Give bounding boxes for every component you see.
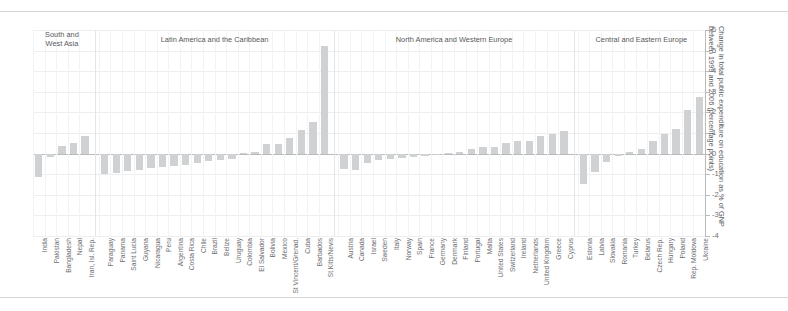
x-tick-label: St Vincent/Grenad.	[292, 238, 299, 294]
bar	[228, 154, 235, 159]
x-tick-label: Israel	[370, 238, 377, 254]
bar-slot	[134, 30, 146, 236]
bar	[182, 154, 189, 165]
category-separator	[636, 30, 637, 236]
category-separator	[68, 30, 69, 236]
group-title: Central and Eastern Europe	[556, 36, 726, 45]
x-tick-label: Argentina	[177, 238, 184, 266]
x-tick-label: Brazil	[211, 238, 218, 255]
bar	[113, 154, 120, 174]
category-separator	[670, 30, 671, 236]
group-divider	[334, 30, 335, 236]
bar-slot	[547, 30, 559, 236]
bar	[456, 152, 463, 154]
bar-slot	[659, 30, 671, 236]
bar-slot	[624, 30, 636, 236]
bar	[502, 143, 509, 153]
group-divider	[95, 30, 96, 236]
category-separator	[682, 30, 683, 236]
category-separator	[408, 30, 409, 236]
x-tick-label: Malta	[486, 238, 493, 254]
bar	[159, 154, 166, 167]
category-separator	[512, 30, 513, 236]
bar	[47, 154, 54, 157]
bar-slot	[601, 30, 613, 236]
bar-slot	[385, 30, 397, 236]
category-separator	[535, 30, 536, 236]
x-tick-label: Guyana	[142, 238, 149, 261]
bar-slot	[33, 30, 45, 236]
bar	[240, 153, 247, 154]
bar-slot	[226, 30, 238, 236]
bar	[514, 141, 521, 153]
x-tick-label: France	[428, 238, 435, 259]
category-separator	[385, 30, 386, 236]
bar	[398, 154, 405, 158]
category-separator	[134, 30, 135, 236]
bar-slot	[578, 30, 590, 236]
bar	[491, 147, 498, 153]
category-separator	[373, 30, 374, 236]
x-tick-label: Rep. Moldova	[690, 238, 697, 279]
bar-slot	[45, 30, 57, 236]
category-separator	[145, 30, 146, 236]
x-tick-label: Mexico	[281, 238, 288, 259]
bar	[638, 149, 645, 153]
bar	[364, 154, 371, 163]
x-tick-label: Norway	[405, 238, 412, 260]
bar-slot	[68, 30, 80, 236]
x-tick-label: Nepal	[76, 238, 83, 255]
bar	[58, 146, 65, 153]
category-separator	[99, 30, 100, 236]
bar	[603, 154, 610, 162]
x-tick-label: Finland	[462, 238, 469, 260]
bar-slot	[523, 30, 535, 236]
category-separator	[180, 30, 181, 236]
bar-slot	[512, 30, 524, 236]
bar	[468, 149, 475, 153]
bar	[275, 144, 282, 153]
top-divider	[0, 11, 788, 12]
category-separator	[272, 30, 273, 236]
category-separator	[338, 30, 339, 236]
category-separator	[45, 30, 46, 236]
bar-slot	[203, 30, 215, 236]
x-tick-label: Slovakia	[609, 238, 616, 263]
category-separator	[500, 30, 501, 236]
category-separator	[693, 30, 694, 236]
x-tick-label: Pakistan	[53, 238, 60, 263]
bar-slot	[693, 30, 705, 236]
bar-slot	[361, 30, 373, 236]
x-tick-label: United Kingdom	[543, 238, 550, 285]
bar-slot	[682, 30, 694, 236]
bar	[217, 154, 224, 160]
x-tick-label: Germany	[439, 238, 446, 265]
bar-slot	[99, 30, 111, 236]
bar	[580, 154, 587, 185]
bar	[387, 154, 394, 159]
bar-slot	[500, 30, 512, 236]
bar-slot	[79, 30, 91, 236]
category-separator	[122, 30, 123, 236]
bar	[560, 131, 567, 154]
category-separator	[307, 30, 308, 236]
bar	[672, 129, 679, 154]
bar-slot	[419, 30, 431, 236]
category-separator	[419, 30, 420, 236]
category-separator	[396, 30, 397, 236]
x-tick-label: Ukraine	[702, 238, 709, 261]
chart-figure: South and West AsiaLatin America and the…	[0, 0, 788, 311]
category-separator	[547, 30, 548, 236]
bar-slot	[535, 30, 547, 236]
bar-slot	[350, 30, 362, 236]
bar-slot	[589, 30, 601, 236]
category-separator	[79, 30, 80, 236]
category-separator	[157, 30, 158, 236]
bar	[251, 152, 258, 154]
category-separator	[624, 30, 625, 236]
bar	[549, 134, 556, 154]
bar-slot	[466, 30, 478, 236]
bar	[170, 154, 177, 166]
bar	[649, 141, 656, 153]
bar-slot	[180, 30, 192, 236]
